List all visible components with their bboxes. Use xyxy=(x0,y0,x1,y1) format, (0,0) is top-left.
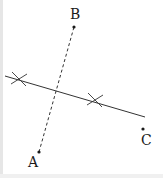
construction-drawing xyxy=(0,0,163,178)
point-b-label: B xyxy=(70,7,80,21)
point-b-dot xyxy=(72,25,75,28)
arc-cross-mark-left xyxy=(11,72,27,86)
point-a-label: A xyxy=(28,155,38,169)
point-c-label: C xyxy=(141,133,152,147)
diagram-canvas: A B C xyxy=(0,0,163,178)
arc-cross-mark-right xyxy=(87,93,103,107)
point-c-dot xyxy=(141,127,144,130)
segment-ab-dashed xyxy=(39,27,74,152)
perpendicular-bisector-line xyxy=(5,76,145,117)
